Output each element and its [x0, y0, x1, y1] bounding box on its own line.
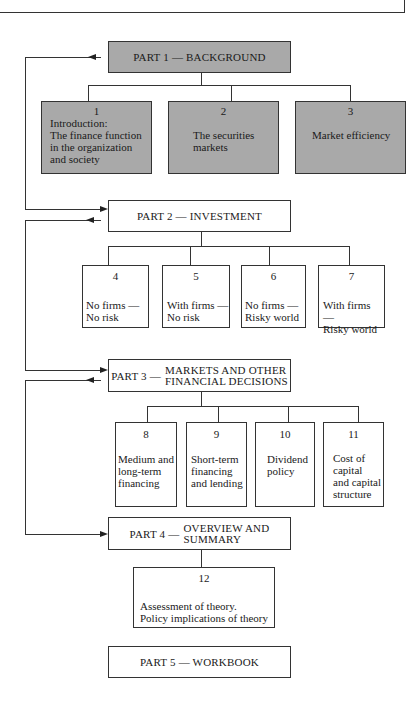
loop-line-1-bottom [25, 209, 101, 210]
chapter-title: No firms — No risk [86, 299, 139, 323]
part-1-box: PART 1 — BACKGROUND [108, 41, 291, 73]
part-3-prefix: PART 3 — [111, 370, 161, 382]
chapter-number: 9 [187, 428, 246, 440]
chapter-title: The securities markets [193, 129, 254, 153]
chapter-title: Dividend policy [267, 453, 308, 477]
connector [231, 85, 232, 101]
part-1-label: PART 1 — BACKGROUND [133, 51, 265, 63]
chapter-title: Introduction: The finance function in th… [50, 117, 142, 165]
chapter-1-box: 1 Introduction: The finance function in … [41, 101, 152, 174]
arrow-right-icon [100, 531, 108, 537]
connector [147, 406, 359, 407]
chapter-2-box: 2 The securities markets [168, 101, 279, 174]
chapter-number: 4 [83, 270, 148, 282]
chapter-title: Cost of capital and capital structure [333, 452, 381, 500]
part-2-label: PART 2 — INVESTMENT [137, 210, 262, 222]
chapter-number: 1 [42, 105, 151, 117]
frame-right-border [404, 0, 405, 13]
chapter-6-box: 6 No firms — Risky world [241, 265, 306, 328]
connector [88, 85, 351, 86]
part-3-title-line-2: FINANCIAL DECISIONS [165, 376, 288, 387]
connector [201, 550, 202, 567]
chapter-12-box: 12 Assessment of theory. Policy implicat… [133, 567, 275, 628]
chapter-title: Medium and long-term financing [118, 453, 174, 489]
part-5-box: PART 5 — WORKBOOK [108, 646, 291, 678]
chapter-number: 5 [163, 270, 229, 282]
chapter-8-box: 8 Medium and long-term financing [115, 422, 177, 507]
connector [108, 246, 109, 265]
arrow-right-icon [100, 206, 108, 212]
loop-line-3 [25, 380, 26, 535]
chapter-10-box: 10 Dividend policy [255, 422, 315, 507]
chapter-9-box: 9 Short-term financing and lending [186, 422, 247, 507]
part-5-label: PART 5 — WORKBOOK [140, 656, 259, 668]
chapter-7-box: 7 With firms — Risky world [318, 265, 385, 328]
connector [147, 406, 148, 422]
chapter-number: 3 [296, 105, 405, 117]
connector [190, 246, 191, 265]
chapter-title: Market efficiency [312, 129, 390, 141]
chapter-title: With firms — Risky world [323, 299, 384, 335]
frame-top-border [0, 12, 405, 13]
connector [108, 246, 350, 247]
arrow-left-icon [86, 217, 94, 223]
chapter-title: No firms — Risky world [245, 299, 299, 323]
chapter-5-box: 5 With firms — No risk [162, 265, 230, 328]
connector [350, 85, 351, 101]
part-3-box: PART 3 — MARKETS AND OTHER FINANCIAL DEC… [108, 359, 291, 392]
chapter-title: With firms — No risk [167, 299, 228, 323]
arrow-right-icon [100, 367, 108, 373]
chapter-title: Short-term financing and lending [191, 453, 243, 489]
chapter-number: 2 [169, 105, 278, 117]
connector [288, 406, 289, 422]
connector [201, 232, 202, 247]
connector [358, 406, 359, 422]
chapter-11-box: 11 Cost of capital and capital structure [323, 422, 384, 507]
part-4-title-line-1: OVERVIEW AND [183, 523, 269, 534]
chapter-number: 12 [134, 572, 274, 584]
chapter-number: 11 [324, 428, 383, 440]
chapter-3-box: 3 Market efficiency [295, 101, 406, 174]
chapter-number: 10 [256, 428, 314, 440]
loop-line-1 [25, 57, 26, 210]
loop-line-2 [25, 220, 26, 371]
connector [88, 85, 89, 101]
chapter-title: Assessment of theory. Policy implication… [140, 600, 268, 624]
part-3-title-line-1: MARKETS AND OTHER [165, 365, 288, 376]
arrow-left-icon [86, 377, 94, 383]
part-4-prefix: PART 4 — [130, 528, 180, 540]
connector [349, 246, 350, 265]
chapter-number: 8 [116, 428, 176, 440]
chapter-number: 6 [242, 270, 305, 282]
connector [218, 406, 219, 422]
chapter-4-box: 4 No firms — No risk [82, 265, 149, 328]
arrow-left-icon [88, 54, 96, 60]
part-4-title-line-2: SUMMARY [183, 534, 269, 545]
part-2-box: PART 2 — INVESTMENT [108, 200, 291, 232]
part-4-box: PART 4 — OVERVIEW AND SUMMARY [108, 517, 291, 550]
loop-line-2-bottom [25, 370, 101, 371]
connector [201, 392, 202, 407]
loop-line-3-bottom [25, 534, 101, 535]
chapter-number: 7 [319, 270, 384, 282]
connector [269, 246, 270, 265]
